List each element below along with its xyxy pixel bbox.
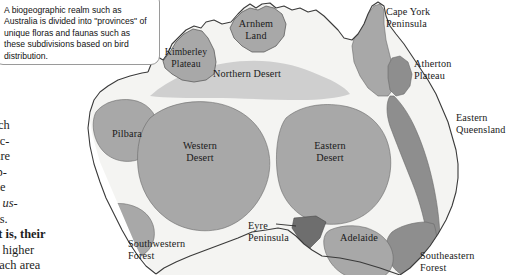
map-label-pilbara: Pilbara bbox=[112, 128, 166, 140]
map-label-southwestern-forest: Southwestern Forest bbox=[128, 238, 210, 261]
body-line: , Neotrop- bbox=[0, 165, 104, 181]
map-label-kimberley-plateau: Kimberley Plateau bbox=[150, 46, 222, 69]
callout-text: A biogeographic realm such as Australia … bbox=[4, 5, 151, 62]
map-label-northern-desert: Northern Desert bbox=[192, 68, 302, 80]
map-label-adelaide: Adelaide bbox=[340, 232, 400, 244]
body-line: adillo, the bbox=[0, 180, 104, 196]
body-line: ecies, such bbox=[0, 118, 104, 134]
province-eastern-desert bbox=[276, 105, 390, 225]
body-text-column: ecies, such to Palearc- species are , Ne… bbox=[0, 118, 104, 274]
body-line: time in each area bbox=[0, 258, 104, 274]
body-line: hern trees. bbox=[0, 212, 104, 228]
body-line: to Palearc- bbox=[0, 134, 104, 150]
map-label-eastern-queensland: Eastern Queensland bbox=[456, 112, 513, 135]
body-line-italic: illandsia us- bbox=[0, 196, 104, 212]
body-line-bold: ons; that is, their bbox=[0, 227, 104, 243]
map-label-atherton-plateau: Atherton Plateau bbox=[414, 58, 484, 81]
map-label-cape-york-peninsula: Cape York Peninsula bbox=[386, 6, 462, 29]
callout-box: A biogeographic realm such as Australia … bbox=[0, 0, 160, 65]
body-line: stributed higher bbox=[0, 243, 104, 259]
map-label-eastern-desert: Eastern Desert bbox=[298, 140, 362, 163]
map-label-eyre-peninsula: Eyre Peninsula bbox=[248, 220, 306, 243]
textbook-page: Kimberley Plateau Arnhem Land Northern D… bbox=[0, 0, 513, 275]
map-label-southeastern-forest: Southeastern Forest bbox=[420, 250, 504, 273]
map-label-arnhem-land: Arnhem Land bbox=[224, 18, 288, 41]
map-label-western-desert: Western Desert bbox=[168, 140, 232, 163]
body-line: species are bbox=[0, 149, 104, 165]
